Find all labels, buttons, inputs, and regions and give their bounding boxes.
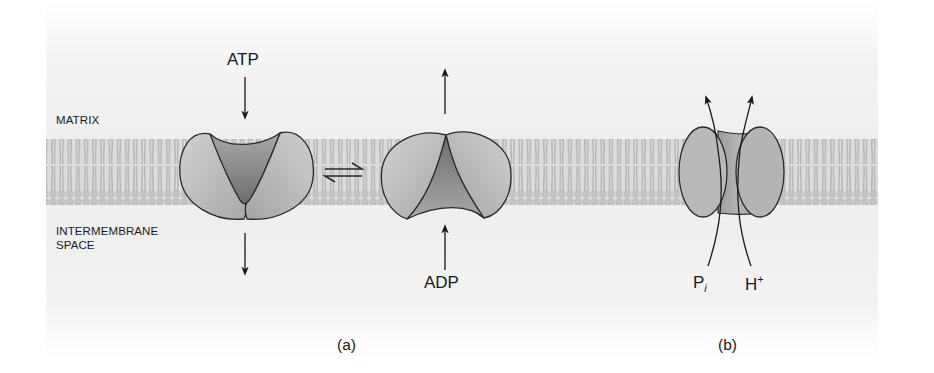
caption-a: (a) <box>337 336 356 354</box>
proton-label-superscript: + <box>757 273 763 285</box>
phosphate-label-base: P <box>693 273 704 292</box>
matrix-label: MATRIX <box>56 114 99 127</box>
adp-label: ADP <box>424 273 459 293</box>
intermembrane-label-line2: SPACE <box>56 239 95 252</box>
atp-label: ATP <box>227 50 259 70</box>
phosphate-label-subscript: i <box>704 282 706 294</box>
phosphate-label: Pi <box>693 273 707 294</box>
proton-label: H+ <box>745 273 764 295</box>
translocase-open-ims <box>381 132 511 219</box>
diagram-canvas <box>0 0 934 373</box>
proton-label-base: H <box>745 275 757 294</box>
caption-b: (b) <box>718 336 737 354</box>
intermembrane-label-line1: INTERMEMBRANE <box>56 225 158 238</box>
translocase-open-matrix <box>180 132 314 219</box>
phosphate-symporter <box>679 97 784 266</box>
